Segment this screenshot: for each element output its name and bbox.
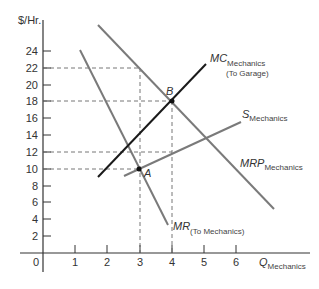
x-ticks: 0 1 2 3 4 5 6 xyxy=(33,245,239,268)
svg-text:22: 22 xyxy=(26,62,38,74)
svg-text:3: 3 xyxy=(137,256,143,268)
svg-text:6: 6 xyxy=(32,196,38,208)
point-b-label: B xyxy=(166,85,173,97)
svg-text:14: 14 xyxy=(26,129,38,141)
svg-text:20: 20 xyxy=(26,79,38,91)
chart: $/Hr. 2 4 6 8 10 12 14 16 18 20 22 24 0 … xyxy=(0,0,319,289)
y-ticks: 2 4 6 8 10 12 14 16 18 20 22 24 xyxy=(26,45,51,242)
reference-lines xyxy=(43,68,172,253)
mc-label-sub2: (To Garage) xyxy=(226,69,269,78)
svg-text:5: 5 xyxy=(201,256,207,268)
svg-text:10: 10 xyxy=(26,163,38,175)
svg-text:4: 4 xyxy=(32,213,38,225)
s-label: SMechanics xyxy=(242,108,288,123)
svg-text:0: 0 xyxy=(33,256,39,268)
svg-text:12: 12 xyxy=(26,146,38,158)
svg-text:6: 6 xyxy=(233,256,239,268)
mr-label: MR(To Mechanics) xyxy=(173,220,245,236)
point-b-marker xyxy=(170,99,175,104)
point-a-marker xyxy=(137,167,142,172)
svg-text:2: 2 xyxy=(104,256,110,268)
svg-text:4: 4 xyxy=(169,256,175,268)
x-axis-label: QMechanics xyxy=(259,256,306,271)
y-axis-label: $/Hr. xyxy=(18,14,41,26)
mc-label: MCMechanics xyxy=(210,52,265,68)
mr-line xyxy=(80,50,168,225)
svg-text:2: 2 xyxy=(32,230,38,242)
svg-text:16: 16 xyxy=(26,112,38,124)
svg-text:18: 18 xyxy=(26,95,38,107)
svg-text:1: 1 xyxy=(72,256,78,268)
mrp-label: MRPMechanics xyxy=(240,157,303,172)
svg-text:8: 8 xyxy=(32,180,38,192)
svg-text:24: 24 xyxy=(26,45,38,57)
point-a-label: A xyxy=(143,167,151,179)
